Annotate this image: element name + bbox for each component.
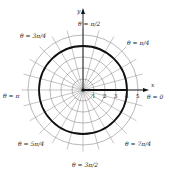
grid-ray <box>24 90 84 106</box>
grid-ray <box>52 37 83 90</box>
grid-ray <box>52 90 83 143</box>
origin-point <box>81 88 84 91</box>
grid-ray <box>39 90 83 134</box>
angle-label-theta-5pi-4: θ = 5π/4 <box>18 140 44 147</box>
angle-label-theta-pi-4: θ = π/4 <box>127 39 149 46</box>
grid-ray <box>67 90 83 150</box>
grid-ray <box>83 74 143 90</box>
x-axis-arrow-icon <box>143 88 149 92</box>
grid-ray <box>30 90 83 121</box>
grid-ray <box>83 37 114 90</box>
x-axis-label: x <box>151 81 155 88</box>
polar-graph: x y 1 2 3 4 5 θ = 0 θ = π/4 θ = π/2 θ = … <box>0 0 169 173</box>
y-axis-arrow-icon <box>81 8 85 14</box>
grid-ray <box>39 46 83 90</box>
tick-label-5: 5 <box>136 93 140 99</box>
tick-label-4: 4 <box>125 93 129 99</box>
angle-label-theta-3pi-2: θ = 3π/2 <box>72 161 98 168</box>
grid-ray <box>24 74 84 90</box>
angle-label-theta-pi-2: θ = π/2 <box>78 20 100 27</box>
tick-label-1: 1 <box>92 93 96 99</box>
angle-label-theta-7pi-4: θ = 7π/4 <box>125 140 151 147</box>
radial-tick-labels: 1 2 3 4 5 <box>92 93 140 99</box>
grid-ray <box>67 31 83 91</box>
angle-label-theta-0: θ = 0 <box>147 93 163 100</box>
grid-ray <box>83 31 99 91</box>
y-axis-label: y <box>76 7 81 15</box>
angle-label-theta-pi: θ = π <box>3 92 20 99</box>
tick-label-2: 2 <box>103 93 107 99</box>
angle-label-theta-3pi-4: θ = 3π/4 <box>20 32 46 39</box>
tick-label-3: 3 <box>114 93 118 99</box>
grid-ray <box>30 59 83 90</box>
grid-ray <box>83 90 99 150</box>
grid-ray <box>83 46 127 90</box>
grid-ray <box>83 59 136 90</box>
grid-ray <box>83 90 114 143</box>
